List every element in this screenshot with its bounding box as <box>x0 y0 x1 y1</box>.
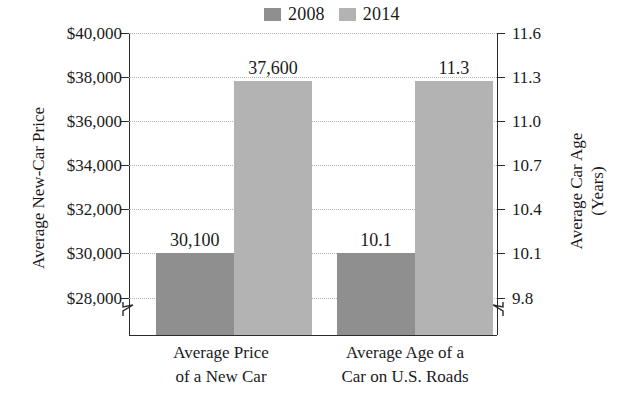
right-axis-tick-mark <box>497 77 505 78</box>
bar-age-2008 <box>337 253 415 335</box>
right-axis-tick-labels: 11.611.311.010.710.410.19.8 <box>512 0 572 398</box>
chart-legend: 2008 2014 <box>264 2 400 26</box>
left-axis-tick-mark <box>121 77 129 78</box>
left-axis-tick-mark <box>121 165 129 166</box>
legend-entry-2008: 2008 <box>264 5 325 23</box>
right-axis-break-icon <box>490 300 504 318</box>
left-axis-tick-label: $40,000 <box>67 25 122 42</box>
category-label-line1: Average Age of a <box>346 343 464 362</box>
left-axis-tick-label: $34,000 <box>67 157 122 174</box>
bar-value-age-2008: 10.1 <box>337 231 415 249</box>
right-axis-title: Average Car Age (Years) <box>566 56 608 326</box>
bar-price-2014 <box>234 81 312 335</box>
left-axis-tick-mark <box>121 209 129 210</box>
category-label-line2: Car on U.S. Roads <box>313 365 497 389</box>
legend-label-2008: 2008 <box>288 5 325 23</box>
right-axis-title-line2: (Years) <box>587 56 608 326</box>
left-axis-tick-mark <box>121 298 129 299</box>
left-axis-tick-label: $32,000 <box>67 201 122 218</box>
category-axis-labels: Average Priceof a New CarAverage Age of … <box>129 341 497 397</box>
left-axis-tick-mark <box>121 121 129 122</box>
bar-age-2014 <box>415 81 493 335</box>
legend-label-2014: 2014 <box>363 5 400 23</box>
left-axis-tick-label: $38,000 <box>67 69 122 86</box>
category-label-1: Average Age of aCar on U.S. Roads <box>313 341 497 397</box>
right-axis-tick-label: 11.6 <box>512 25 541 42</box>
right-axis-tick-label: 10.7 <box>512 157 542 174</box>
left-axis-tick-label: $28,000 <box>67 290 122 307</box>
plot-area: 30,10037,60010.111.3 <box>129 33 497 335</box>
left-axis-tick-mark <box>121 253 129 254</box>
bar-value-price-2008: 30,100 <box>156 231 234 249</box>
bar-value-price-2014: 37,600 <box>234 59 312 77</box>
category-label-0: Average Priceof a New Car <box>129 341 313 397</box>
left-axis-tick-label: $36,000 <box>67 113 122 130</box>
bar-chart: 2008 2014 Average New-Car Price Average … <box>0 0 619 398</box>
legend-swatch-2014 <box>339 8 356 21</box>
left-axis-tick-labels: $40,000$38,000$36,000$34,000$32,000$30,0… <box>30 0 122 398</box>
right-axis-tick-label: 11.3 <box>512 69 541 86</box>
right-axis-tick-mark <box>497 121 505 122</box>
right-axis-tick-label: 9.8 <box>512 290 533 307</box>
right-axis-tick-mark <box>497 209 505 210</box>
right-axis-line <box>497 33 498 335</box>
left-axis-break-icon <box>122 300 136 318</box>
right-axis-tick-label: 11.0 <box>512 113 541 130</box>
legend-entry-2014: 2014 <box>339 5 400 23</box>
bar-value-age-2014: 11.3 <box>415 59 493 77</box>
right-axis-tick-label: 10.1 <box>512 245 542 262</box>
right-axis-tick-label: 10.4 <box>512 201 542 218</box>
category-label-line2: of a New Car <box>129 365 313 389</box>
right-axis-tick-mark <box>497 298 505 299</box>
left-axis-tick-label: $30,000 <box>67 245 122 262</box>
bottom-axis-line <box>129 335 497 336</box>
legend-swatch-2008 <box>264 8 281 21</box>
bar-group: 30,10037,60010.111.3 <box>129 33 497 335</box>
bar-price-2008 <box>156 253 234 335</box>
category-label-line1: Average Price <box>173 343 269 362</box>
right-axis-tick-mark <box>497 165 505 166</box>
right-axis-tick-mark <box>497 253 505 254</box>
right-axis-tick-mark <box>497 33 505 34</box>
left-axis-tick-mark <box>121 33 129 34</box>
